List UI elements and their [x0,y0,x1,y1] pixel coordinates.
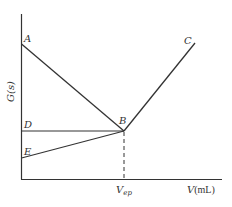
point-label-a: A [23,33,31,44]
endpoint-label: Vep [116,184,132,197]
y-axis-label-group: G(s) [5,81,16,102]
point-label-c: C [184,35,192,46]
point-label-e: E [23,146,32,157]
line-e-to-b [22,131,125,158]
point-label-d: D [23,119,32,130]
point-label-b: B [118,115,126,126]
line-a-to-b [22,44,125,131]
endpoint-label-subscript: ep [123,189,132,197]
x-axis-label-unit: (mL) [194,184,215,196]
y-axis-label: G(s) [5,81,16,102]
conductometric-titration-diagram: A B C D E G(s) Vep V(mL) [0,0,232,207]
x-axis-label: V(mL) [187,184,215,196]
line-b-to-c [124,43,195,131]
